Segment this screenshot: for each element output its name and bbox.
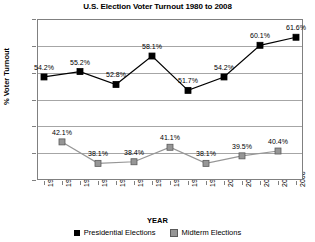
data-point-marker	[185, 87, 191, 93]
data-point-label: 60.1%	[250, 32, 270, 39]
data-point-label: 42.1%	[52, 129, 72, 136]
x-axis-tick-mark	[224, 181, 225, 185]
x-axis-tick-mark	[62, 181, 63, 185]
y-axis-tick-mark	[32, 153, 36, 154]
data-point-label: 58.1%	[142, 43, 162, 50]
data-point-label: 54.2%	[34, 64, 54, 71]
x-axis-tick-mark	[98, 181, 99, 185]
x-axis-tick-mark	[170, 181, 171, 185]
y-axis-label: % Voter Turnout	[2, 27, 11, 127]
data-point-marker	[221, 74, 227, 80]
data-point-marker	[149, 53, 155, 59]
x-axis-tick-mark	[134, 181, 135, 185]
data-point-marker	[95, 160, 101, 166]
data-point-marker	[239, 153, 245, 159]
data-point-marker	[167, 144, 173, 150]
chart-title: U.S. Election Voter Turnout 1980 to 2008	[0, 2, 315, 11]
data-point-label: 61.6%	[286, 24, 306, 31]
x-axis-tick-mark	[44, 181, 45, 185]
x-axis-tick-mark	[116, 181, 117, 185]
x-axis-tick-mark	[152, 181, 153, 185]
data-point-label: 55.2%	[70, 59, 90, 66]
x-axis-tick-mark	[206, 181, 207, 185]
data-point-marker	[275, 148, 281, 154]
legend-label: Midterm Elections	[182, 228, 242, 237]
x-axis-tick-mark	[278, 181, 279, 185]
legend-item[interactable]: Midterm Elections	[170, 228, 242, 237]
y-axis-tick-mark	[32, 19, 36, 20]
data-point-marker	[131, 159, 137, 165]
data-point-label: 40.4%	[268, 138, 288, 145]
y-axis-tick-mark	[32, 126, 36, 127]
data-point-marker	[113, 81, 119, 87]
legend-swatch-icon	[170, 229, 178, 237]
data-point-marker	[257, 42, 263, 48]
x-axis-label: YEAR	[0, 216, 315, 225]
data-point-label: 54.2%	[214, 64, 234, 71]
data-point-label: 52.8%	[106, 71, 126, 78]
chart-container: U.S. Election Voter Turnout 1980 to 2008…	[0, 0, 315, 242]
data-point-label: 38.1%	[196, 150, 216, 157]
chart-legend: Presidential ElectionsMidterm Elections	[0, 228, 315, 237]
data-series-layer	[37, 19, 303, 180]
x-axis-tick-mark	[296, 181, 297, 185]
data-point-label: 41.1%	[160, 134, 180, 141]
y-axis-tick-mark	[32, 46, 36, 47]
data-point-label: 38.1%	[88, 150, 108, 157]
data-point-label: 38.4%	[124, 149, 144, 156]
y-axis-tick-mark	[32, 100, 36, 101]
data-point-label: 51.7%	[178, 77, 198, 84]
legend-item[interactable]: Presidential Elections	[74, 228, 156, 237]
legend-label: Presidential Elections	[84, 228, 156, 237]
data-point-marker	[41, 74, 47, 80]
data-point-marker	[59, 139, 65, 145]
y-axis-tick-mark	[32, 180, 36, 181]
data-point-label: 39.5%	[232, 143, 252, 150]
legend-swatch-icon	[74, 230, 80, 236]
data-point-marker	[77, 69, 83, 75]
x-axis-tick-mark	[80, 181, 81, 185]
data-point-marker	[203, 160, 209, 166]
data-point-marker	[293, 34, 299, 40]
x-axis-tick-mark	[260, 181, 261, 185]
x-axis-tick-mark	[188, 181, 189, 185]
y-axis-tick-mark	[32, 73, 36, 74]
x-axis-tick-mark	[242, 181, 243, 185]
